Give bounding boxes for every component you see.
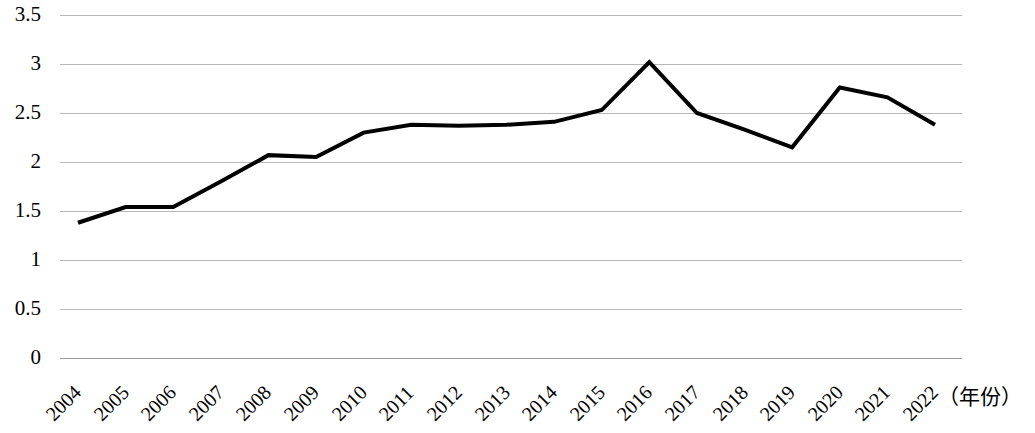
x-tick-label: 2012 [423,382,465,424]
x-tick-label: 2013 [471,382,513,424]
x-tick-label: 2006 [137,382,179,424]
x-tick-label: 2019 [756,382,798,424]
x-tick-label: 2009 [280,382,322,424]
x-axis-tick-labels: 2004200520062007200820092010201120122013… [0,0,1035,433]
x-tick-label: 2020 [804,382,846,424]
x-tick-label: 2011 [375,382,417,424]
x-tick-label: 2016 [613,382,655,424]
x-tick-label: 2004 [42,382,84,424]
x-tick-label: 2010 [328,382,370,424]
x-tick-label: 2007 [185,382,227,424]
x-tick-label: 2005 [90,382,132,424]
x-tick-label: 2017 [661,382,703,424]
chart-figure: 00.511.522.533.5 20042005200620072008200… [0,0,1035,433]
x-tick-label: 2014 [518,382,560,424]
x-tick-label: 2018 [709,382,751,424]
x-tick-label: 2008 [232,382,274,424]
x-axis-title: （年份） [938,380,1022,410]
x-tick-label: 2021 [851,382,893,424]
x-tick-label: 2022 [899,382,941,424]
x-tick-label: 2015 [566,382,608,424]
